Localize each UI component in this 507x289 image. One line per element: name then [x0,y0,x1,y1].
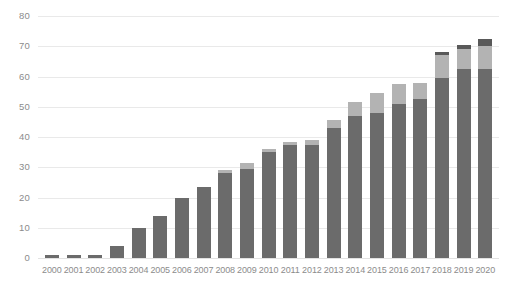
bar-group[interactable] [84,16,106,258]
bar-group[interactable] [409,16,431,258]
bar-group[interactable] [236,16,258,258]
bar-stack[interactable] [240,163,254,258]
bar-segment[interactable] [240,169,254,258]
y-axis-tick-label: 30 [0,163,30,173]
bar-group[interactable] [474,16,496,258]
x-axis-tick-label: 2003 [106,262,128,278]
x-axis-tick-label: 2020 [474,262,496,278]
bar-group[interactable] [193,16,215,258]
bar-segment[interactable] [153,216,167,258]
bar-group[interactable] [106,16,128,258]
bar-stack[interactable] [327,120,341,258]
bar-segment[interactable] [45,255,59,258]
bar-group[interactable] [63,16,85,258]
x-axis-tick-label: 2008 [214,262,236,278]
bar-group[interactable] [149,16,171,258]
bar-stack[interactable] [175,198,189,259]
bar-segment[interactable] [457,69,471,258]
bar-segment[interactable] [457,49,471,69]
x-axis-tick-label: 2010 [258,262,280,278]
bar-stack[interactable] [478,39,492,258]
bar-stack[interactable] [153,216,167,258]
bar-segment[interactable] [132,228,146,258]
y-axis-tick-label: 80 [0,11,30,21]
y-axis-tick-label: 60 [0,72,30,82]
bar-group[interactable] [258,16,280,258]
bar-segment[interactable] [67,255,81,258]
y-axis-tick-label: 10 [0,223,30,233]
bar-stack[interactable] [45,255,59,258]
bar-segment[interactable] [413,83,427,100]
bar-segment[interactable] [478,46,492,69]
bar-segment[interactable] [327,128,341,258]
bar-segment[interactable] [175,198,189,259]
bar-segment[interactable] [413,99,427,258]
bar-series-group [38,16,499,258]
bar-chart: 01020304050607080 2000200120022003200420… [0,0,507,289]
bar-group[interactable] [171,16,193,258]
bar-stack[interactable] [67,255,81,258]
bar-segment[interactable] [327,120,341,128]
bar-stack[interactable] [392,84,406,258]
bar-stack[interactable] [305,140,319,258]
bar-stack[interactable] [197,187,211,258]
gridline [38,258,499,259]
x-axis: 2000200120022003200420052006200720082009… [38,262,499,278]
bar-group[interactable] [128,16,150,258]
bar-stack[interactable] [88,255,102,258]
bar-segment[interactable] [262,152,276,258]
bar-group[interactable] [214,16,236,258]
bar-stack[interactable] [110,246,124,258]
plot-area [38,16,499,258]
bar-segment[interactable] [110,246,124,258]
bar-group[interactable] [388,16,410,258]
bar-group[interactable] [453,16,475,258]
y-axis-tick-label: 20 [0,193,30,203]
bar-group[interactable] [366,16,388,258]
x-axis-tick-label: 2018 [431,262,453,278]
bar-segment[interactable] [348,116,362,258]
bar-stack[interactable] [370,93,384,258]
x-axis-tick-label: 2006 [171,262,193,278]
x-axis-tick-label: 2016 [388,262,410,278]
bar-segment[interactable] [88,255,102,258]
x-axis-tick-label: 2012 [301,262,323,278]
bar-stack[interactable] [435,52,449,258]
bar-group[interactable] [279,16,301,258]
x-axis-tick-label: 2011 [279,262,301,278]
bar-segment[interactable] [370,93,384,113]
bar-segment[interactable] [435,55,449,78]
bar-stack[interactable] [262,149,276,258]
bar-segment[interactable] [392,84,406,104]
bar-segment[interactable] [370,113,384,258]
x-axis-tick-label: 2002 [84,262,106,278]
bar-group[interactable] [431,16,453,258]
bar-stack[interactable] [283,142,297,258]
x-axis-tick-label: 2017 [409,262,431,278]
x-axis-tick-label: 2005 [149,262,171,278]
bar-segment[interactable] [283,145,297,258]
bar-segment[interactable] [478,39,492,47]
bar-segment[interactable] [197,187,211,258]
bar-segment[interactable] [348,102,362,116]
x-axis-tick-label: 2001 [63,262,85,278]
bar-segment[interactable] [218,173,232,258]
bar-segment[interactable] [435,78,449,258]
x-axis-tick-label: 2004 [128,262,150,278]
bar-stack[interactable] [413,83,427,258]
y-axis-tick-label: 70 [0,42,30,52]
x-axis-tick-label: 2015 [366,262,388,278]
bar-stack[interactable] [218,170,232,258]
bar-segment[interactable] [478,69,492,258]
x-axis-tick-label: 2000 [41,262,63,278]
bar-segment[interactable] [305,145,319,258]
bar-stack[interactable] [348,102,362,258]
bar-group[interactable] [301,16,323,258]
bar-group[interactable] [323,16,345,258]
y-axis-tick-label: 40 [0,132,30,142]
bar-segment[interactable] [392,104,406,258]
bar-group[interactable] [41,16,63,258]
bar-stack[interactable] [132,228,146,258]
bar-group[interactable] [344,16,366,258]
bar-stack[interactable] [457,45,471,258]
